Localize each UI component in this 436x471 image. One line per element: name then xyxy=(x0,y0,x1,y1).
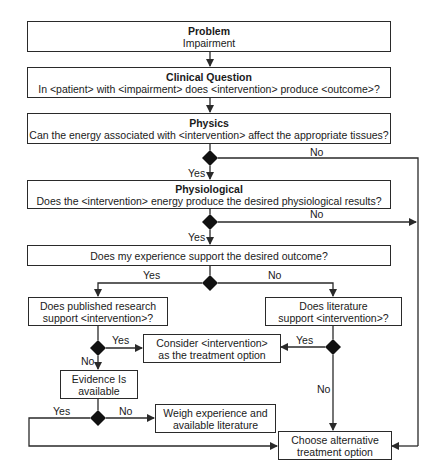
physics-box: Physics Can the energy associated with <… xyxy=(27,113,391,144)
physiological-yes-label: Yes xyxy=(188,231,205,243)
consider-line2: as the treatment option xyxy=(158,349,265,361)
research-no-label: No xyxy=(81,355,94,367)
evidence-line2: available xyxy=(78,385,119,397)
evidence-line1: Evidence Is xyxy=(72,373,126,385)
weigh-line2: available literature xyxy=(173,419,258,431)
evidence-no-label: No xyxy=(119,405,132,417)
literature-no-label: No xyxy=(317,383,330,395)
evidence-box: Evidence Is available xyxy=(60,370,138,399)
literature-box: Does literature support <intervention>? xyxy=(265,297,402,326)
physiological-text: Does the <intervention> energy produce t… xyxy=(37,195,382,207)
physics-no-label: No xyxy=(310,146,323,158)
experience-no-label: No xyxy=(268,269,281,281)
physiological-box: Physiological Does the <intervention> en… xyxy=(27,180,391,209)
evidence-yes-label: Yes xyxy=(53,405,70,417)
experience-text: Does my experience support the desired o… xyxy=(90,250,328,262)
experience-yes-label: Yes xyxy=(143,269,160,281)
choose-alternative-line1: Choose alternative xyxy=(291,434,379,446)
choose-alternative-box: Choose alternative treatment option xyxy=(278,431,392,460)
physics-yes-label: Yes xyxy=(188,167,205,179)
physics-title: Physics xyxy=(189,117,229,129)
physiological-title: Physiological xyxy=(175,183,243,195)
problem-box: Problem Impairment xyxy=(27,21,391,52)
physics-text: Can the energy associated with <interven… xyxy=(29,129,388,141)
clinical-question-box: Clinical Question In <patient> with <imp… xyxy=(27,67,391,98)
clinical-question-title: Clinical Question xyxy=(166,71,252,83)
literature-line2: support <intervention>? xyxy=(278,312,388,324)
published-research-line1: Does published research xyxy=(40,300,156,312)
clinical-question-text: In <patient> with <impairment> does <int… xyxy=(38,83,379,95)
published-research-line2: support <intervention>? xyxy=(43,312,153,324)
research-yes-label: Yes xyxy=(112,334,129,346)
problem-title: Problem xyxy=(188,25,230,37)
consider-box: Consider <intervention> as the treatment… xyxy=(143,334,281,363)
literature-line1: Does literature xyxy=(299,300,367,312)
choose-alternative-line2: treatment option xyxy=(297,446,373,458)
problem-text: Impairment xyxy=(183,37,236,49)
physiological-no-label: No xyxy=(310,208,323,220)
consider-line1: Consider <intervention> xyxy=(156,337,268,349)
published-research-box: Does published research support <interve… xyxy=(28,297,168,326)
literature-yes-label: Yes xyxy=(296,334,313,346)
weigh-box: Weigh experience and available literatur… xyxy=(155,404,276,433)
weigh-line1: Weigh experience and xyxy=(163,407,267,419)
experience-box: Does my experience support the desired o… xyxy=(27,245,391,266)
